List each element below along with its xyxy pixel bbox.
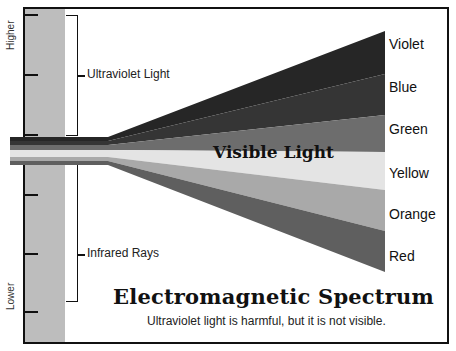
band-label-green: Green bbox=[389, 121, 428, 137]
diagram-subtitle: Ultraviolet light is harmful, but it is … bbox=[147, 314, 386, 328]
diagram-title: Electromagnetic Spectrum bbox=[113, 284, 434, 309]
band-label-red: Red bbox=[389, 248, 415, 264]
band-label-violet: Violet bbox=[389, 36, 424, 52]
band-label-orange: Orange bbox=[389, 206, 436, 222]
band-label-blue: Blue bbox=[389, 79, 417, 95]
visible-light-label: Visible Light bbox=[213, 142, 334, 162]
band-label-yellow: Yellow bbox=[389, 165, 429, 181]
